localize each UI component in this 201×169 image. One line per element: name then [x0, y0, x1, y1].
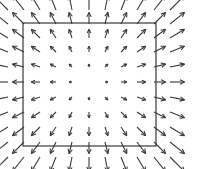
vector-arrow [154, 0, 166, 10]
vector-arrow [50, 12, 56, 24]
vector-arrow [0, 112, 8, 118]
vector-arrow [137, 112, 146, 118]
vector-arrow [0, 46, 8, 52]
vector-arrow [31, 157, 40, 169]
vector-arrow [105, 157, 109, 169]
vector-arrow [137, 29, 146, 38]
vector-arrow [12, 63, 24, 67]
vector-arrow [31, 64, 40, 68]
vector-arrow [31, 97, 40, 101]
vector-arrow [31, 12, 40, 24]
vector-arrow [121, 142, 127, 154]
vector-arrow [137, 127, 146, 136]
vector-arrow [50, 0, 56, 10]
vector-arrow [12, 157, 24, 169]
vector-arrow [105, 97, 108, 100]
vector-arrow [68, 12, 72, 24]
vector-arrow [69, 29, 73, 38]
vector-arrow [121, 46, 127, 52]
vector-arrow [87, 127, 91, 136]
vector-arrow [31, 112, 40, 118]
vector-arrow [88, 64, 90, 67]
vector-arrow [121, 112, 127, 118]
vector-arrow [105, 29, 109, 38]
vector-arrow [0, 29, 8, 38]
vector-arrow [170, 12, 185, 24]
vector-arrow [88, 46, 91, 52]
vector-arrow [170, 0, 185, 10]
vector-arrow [31, 0, 40, 10]
vector-arrow [170, 97, 185, 101]
vector-arrow [170, 112, 185, 118]
vector-arrow [121, 127, 127, 136]
vector-arrow [69, 97, 72, 100]
vector-arrow [50, 29, 56, 38]
vector-arrow [121, 81, 127, 84]
vector-field-diagram [0, 0, 201, 169]
vector-arrow [87, 29, 91, 38]
vector-arrow [68, 142, 72, 154]
vector-arrow [137, 142, 146, 154]
vector-arrow [105, 0, 109, 10]
vector-arrow [31, 29, 40, 38]
vector-arrow [170, 46, 185, 52]
vector-arrow [50, 64, 56, 67]
vector-arrow [154, 142, 166, 154]
vector-arrow [87, 157, 91, 169]
vector-arrow [12, 12, 24, 24]
vector-arrow [87, 0, 91, 10]
vector-arrow [88, 97, 90, 100]
vector-arrow [69, 127, 73, 136]
vector-arrow [68, 0, 72, 10]
vector-arrow [137, 97, 146, 101]
vector-arrow [50, 81, 56, 84]
vector-arrow [0, 12, 8, 24]
vector-arrow [0, 63, 8, 67]
vector-arrow [31, 142, 40, 154]
vector-arrow [0, 97, 8, 101]
vector-arrow [50, 142, 56, 154]
vector-arrow [50, 112, 56, 118]
vector-arrow [69, 46, 72, 52]
vector-arrow [87, 142, 91, 154]
vector-arrow [105, 112, 108, 118]
vector-arrow [12, 0, 24, 10]
vector-arrow [105, 127, 109, 136]
vector-arrow [31, 80, 40, 84]
vector-arrow [105, 81, 108, 83]
vector-arrow [12, 112, 24, 118]
vector-arrow [69, 112, 72, 118]
vector-arrow [50, 97, 56, 100]
vector-arrow [137, 157, 146, 169]
vector-arrow [121, 0, 127, 10]
vector-arrow [0, 0, 8, 10]
vector-arrow [154, 12, 166, 24]
vector-arrow [170, 29, 185, 38]
vector-arrow [137, 46, 146, 52]
vector-arrow [12, 97, 24, 101]
vector-arrow [50, 157, 56, 169]
vector-arrow [12, 127, 24, 136]
vector-arrow [137, 12, 146, 24]
vector-arrow [137, 0, 146, 10]
vector-arrow [105, 12, 109, 24]
vector-arrow [87, 12, 91, 24]
vector-arrow [88, 112, 91, 118]
vector-arrow [0, 142, 8, 154]
vector-arrow [50, 46, 56, 52]
vector-arrow [154, 157, 166, 169]
vector-arrow [121, 64, 127, 67]
vector-arrow [170, 157, 185, 169]
vector-arrow [170, 80, 185, 84]
arrow-group [0, 0, 185, 169]
vector-arrow [137, 80, 146, 84]
vector-arrow [12, 80, 24, 84]
vector-arrow [0, 80, 8, 84]
vector-arrow [0, 127, 8, 136]
vector-arrow [31, 127, 40, 136]
vector-arrow [12, 29, 24, 38]
vector-arrow [12, 46, 24, 52]
vector-arrow [50, 127, 56, 136]
vector-arrow [0, 157, 8, 169]
vector-arrow [68, 157, 72, 169]
